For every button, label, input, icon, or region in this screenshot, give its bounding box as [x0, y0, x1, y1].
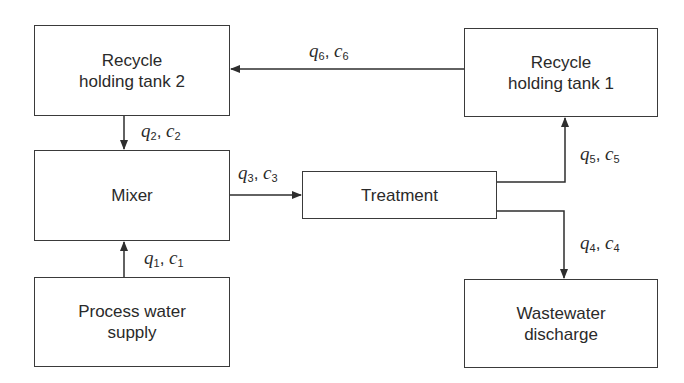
- label-q1-c1: q1, c1: [144, 247, 184, 269]
- arrow-q4: [496, 211, 564, 278]
- mixer: Mixer: [34, 150, 230, 241]
- label-q4-c4: q4, c4: [580, 232, 620, 254]
- label-q3-c3: q3, c3: [238, 162, 278, 184]
- process-water-supply: Process watersupply: [34, 277, 230, 367]
- label-q5-c5: q5, c5: [580, 143, 620, 165]
- recycle-holding-tank-1: Recycleholding tank 1: [464, 28, 658, 117]
- label-q2-c2: q2, c2: [141, 120, 181, 142]
- arrow-q5: [496, 118, 565, 182]
- wastewater-discharge: Wastewaterdischarge: [464, 279, 658, 368]
- recycle-holding-tank-2: Recycleholding tank 2: [34, 25, 230, 116]
- treatment: Treatment: [302, 171, 497, 219]
- label-q6-c6: q6, c6: [309, 40, 349, 62]
